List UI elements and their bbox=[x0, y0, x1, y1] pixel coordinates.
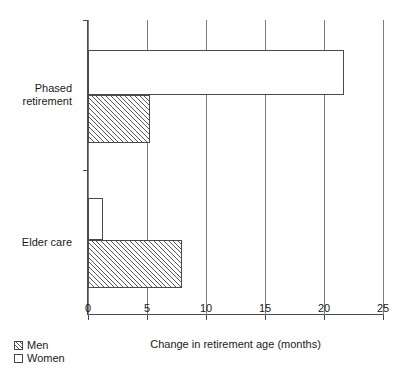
x-axis-tick-label-0: 0 bbox=[85, 302, 91, 315]
x-axis-tick-label-10: 10 bbox=[200, 302, 212, 315]
x-axis-line bbox=[87, 314, 383, 315]
legend-swatch-men-icon bbox=[14, 341, 23, 350]
bar-elder-care-men bbox=[88, 240, 182, 288]
x-axis-tick-5 bbox=[147, 315, 148, 320]
y-axis-labels: Phased retirement Elder care bbox=[0, 0, 80, 382]
x-axis-tick-label-5: 5 bbox=[144, 302, 150, 315]
legend-item-women: Women bbox=[14, 352, 65, 365]
x-axis-tick-20 bbox=[324, 315, 325, 320]
x-axis-tick-label-25: 25 bbox=[377, 302, 389, 315]
bar-elder-care-women bbox=[88, 198, 103, 240]
y-axis-label-elder-care: Elder care bbox=[0, 236, 72, 249]
legend-label-men: Men bbox=[27, 339, 48, 352]
legend-item-men: Men bbox=[14, 339, 65, 352]
x-axis-title: Change in retirement age (months) bbox=[88, 337, 383, 351]
x-axis-tick-15 bbox=[265, 315, 266, 320]
x-axis-tick-label-20: 20 bbox=[318, 302, 330, 315]
x-axis-tick-10 bbox=[206, 315, 207, 320]
gridline-25 bbox=[383, 20, 384, 315]
chart-figure: Phased retirement Elder care 0510152025 … bbox=[0, 0, 413, 382]
legend-label-women: Women bbox=[27, 352, 65, 365]
legend: Men Women bbox=[14, 339, 65, 365]
x-axis-tick-25 bbox=[383, 315, 384, 320]
bar-phased-retirement-men bbox=[88, 95, 150, 143]
y-axis-label-phased-retirement: Phased retirement bbox=[0, 82, 72, 108]
x-axis-tick-0 bbox=[88, 315, 89, 320]
bar-phased-retirement-women bbox=[88, 50, 344, 95]
x-axis-tick-label-15: 15 bbox=[259, 302, 271, 315]
plot-area bbox=[88, 20, 383, 315]
legend-swatch-women-icon bbox=[14, 354, 23, 363]
